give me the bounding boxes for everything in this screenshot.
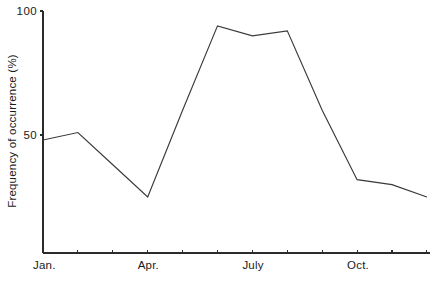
chart-canvas: 100 50 Frequency of occurrence (%) Jan. … — [0, 0, 435, 282]
x-axis-tick-label-july: July — [242, 259, 263, 271]
x-axis-group: Jan. Apr. July Oct. — [33, 250, 430, 271]
line-chart: 100 50 Frequency of occurrence (%) Jan. … — [0, 0, 435, 282]
x-axis-tick-label-jan: Jan. — [33, 259, 56, 271]
data-series-line — [43, 26, 427, 197]
y-axis-tick-label-100: 100 — [17, 5, 37, 17]
y-axis-group: 100 50 Frequency of occurrence (%) — [6, 5, 43, 253]
x-axis-tick-label-apr: Apr. — [138, 259, 159, 271]
x-axis-tick-label-oct: Oct. — [347, 259, 369, 271]
y-axis-title: Frequency of occurrence (%) — [6, 54, 18, 208]
y-axis-tick-label-50: 50 — [23, 129, 37, 141]
